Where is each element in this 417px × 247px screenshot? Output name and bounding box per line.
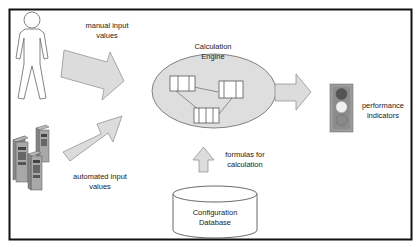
database-label: Configuration Database — [183, 208, 247, 228]
database-label-line2: Database — [183, 218, 247, 228]
database-label-line1: Configuration — [183, 208, 247, 218]
performance-label-line1: performance — [356, 101, 410, 111]
manual-input-label-line2: values — [77, 31, 137, 41]
formulas-label: formulas for calculation — [218, 150, 272, 170]
engine-label-line2: Engine — [183, 52, 243, 62]
performance-label: performance indicators — [356, 101, 410, 121]
engine-label-line1: Calculation — [183, 42, 243, 52]
automated-input-label: automated input values — [68, 172, 132, 192]
automated-input-label-line1: automated input — [68, 172, 132, 182]
traffic-light-icon — [330, 84, 353, 132]
performance-label-line2: indicators — [356, 111, 410, 121]
engine-label: Calculation Engine — [183, 42, 243, 62]
automated-input-label-line2: values — [68, 182, 132, 192]
manual-input-label-line1: manual input — [77, 21, 137, 31]
manual-input-label: manual input values — [77, 21, 137, 41]
calculation-engine — [152, 54, 276, 128]
formulas-label-line1: formulas for — [218, 150, 272, 160]
formulas-label-line2: calculation — [218, 160, 272, 170]
calculation-engine-diagram: manual input values automated input valu… — [0, 0, 417, 247]
